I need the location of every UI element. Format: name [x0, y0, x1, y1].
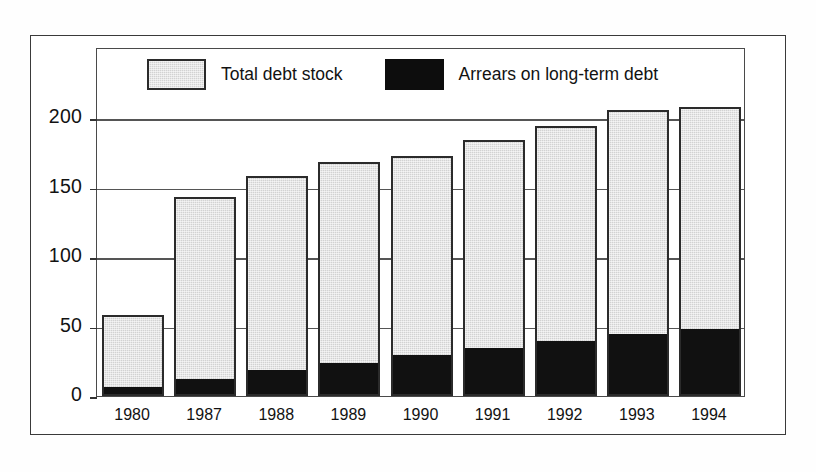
chart-figure: 050100150200 Total debt stock Arrears on… [0, 0, 816, 472]
bar-group-1990[interactable] [391, 395, 453, 396]
bar-total-debt-stock-1990[interactable] [391, 156, 453, 396]
x-tick-label-1991: 1991 [457, 406, 529, 424]
y-tick-label-150: 150 [12, 175, 82, 198]
bar-group-1989[interactable] [318, 395, 380, 396]
y-tick-mark-200 [90, 119, 97, 121]
bar-arrears-1994[interactable] [681, 329, 739, 394]
y-tick-label-200: 200 [12, 105, 82, 128]
bar-arrears-1989[interactable] [320, 363, 378, 394]
bar-total-debt-stock-1994[interactable] [679, 107, 741, 396]
x-tick-label-1992: 1992 [529, 406, 601, 424]
bar-total-debt-stock-1991[interactable] [463, 140, 525, 396]
x-tick-label-1990: 1990 [384, 406, 456, 424]
x-tick-label-1993: 1993 [601, 406, 673, 424]
x-tick-label-1980: 1980 [96, 406, 168, 424]
bar-total-debt-stock-1988[interactable] [246, 176, 308, 396]
chart-legend: Total debt stock Arrears on long-term de… [147, 59, 658, 90]
y-tick-mark-100 [90, 258, 97, 260]
bar-group-1994[interactable] [679, 395, 741, 396]
x-tick-label-1988: 1988 [240, 406, 312, 424]
y-tick-label-100: 100 [12, 244, 82, 267]
y-tick-label-50: 50 [12, 314, 82, 337]
bar-group-1992[interactable] [535, 395, 597, 396]
plot-area: Total debt stock Arrears on long-term de… [96, 48, 745, 397]
legend-entry-total-debt-stock: Total debt stock [147, 59, 343, 90]
bar-arrears-1993[interactable] [609, 334, 667, 394]
bar-group-1991[interactable] [463, 395, 525, 396]
bar-group-1993[interactable] [607, 395, 669, 396]
x-tick-label-1987: 1987 [168, 406, 240, 424]
bar-group-1987[interactable] [174, 395, 236, 396]
y-tick-label-0: 0 [12, 383, 82, 406]
bar-arrears-1991[interactable] [465, 348, 523, 394]
bar-arrears-1992[interactable] [537, 341, 595, 394]
bar-arrears-1988[interactable] [248, 370, 306, 394]
legend-label-arrears: Arrears on long-term debt [459, 64, 658, 85]
legend-label-total-debt-stock: Total debt stock [221, 64, 343, 85]
bar-total-debt-stock-1989[interactable] [318, 162, 380, 396]
y-tick-mark-0 [90, 397, 97, 399]
bar-total-debt-stock-1993[interactable] [607, 110, 669, 396]
bar-group-1980[interactable] [102, 395, 164, 396]
bar-arrears-1980[interactable] [104, 387, 162, 394]
bar-group-1988[interactable] [246, 395, 308, 396]
x-tick-label-1989: 1989 [312, 406, 384, 424]
bar-total-debt-stock-1992[interactable] [535, 126, 597, 396]
bar-total-debt-stock-1980[interactable] [102, 315, 164, 396]
x-tick-label-1994: 1994 [673, 406, 745, 424]
legend-swatch-arrears [385, 59, 444, 90]
bar-total-debt-stock-1987[interactable] [174, 197, 236, 396]
bar-arrears-1987[interactable] [176, 379, 234, 394]
y-tick-mark-150 [90, 189, 97, 191]
legend-swatch-total-debt-stock [147, 59, 206, 90]
bar-arrears-1990[interactable] [393, 355, 451, 394]
y-tick-mark-50 [90, 328, 97, 330]
legend-entry-arrears: Arrears on long-term debt [385, 59, 658, 90]
